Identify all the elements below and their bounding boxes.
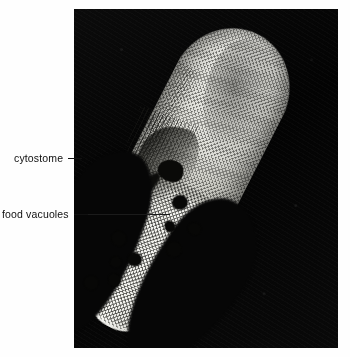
label-food-vacuoles: food vacuoles: [2, 209, 69, 220]
annotation-cytostome: cytostome: [14, 153, 82, 164]
label-cytostome: cytostome: [14, 153, 63, 164]
food-vacuole: [166, 241, 182, 257]
leader-line-food-vacuoles: [74, 214, 88, 215]
leader-line-cytostome: [68, 158, 82, 159]
annotation-food-vacuoles: food vacuoles: [2, 209, 88, 220]
figure-page: cytostome food vacuoles: [0, 0, 350, 357]
paramecium-cell: [74, 9, 311, 348]
organism-layer: [74, 9, 338, 348]
leader-line-food-vacuoles-inner: [74, 214, 170, 215]
micrograph-plate: [74, 9, 338, 348]
